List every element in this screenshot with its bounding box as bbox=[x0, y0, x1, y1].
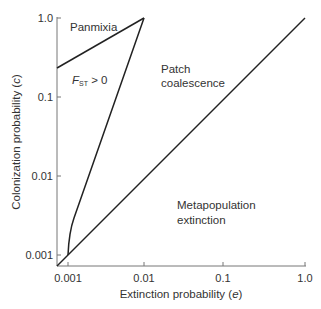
fst-boundary-curve bbox=[68, 18, 144, 255]
region-label-metapopulation-extinction: Metapopulation bbox=[177, 199, 256, 211]
x-tick-label: 1.0 bbox=[297, 272, 312, 284]
y-tick-label: 0.01 bbox=[32, 170, 53, 182]
region-label-metapopulation-extinction: extinction bbox=[177, 214, 226, 226]
region-label-fst: FST > 0 bbox=[72, 74, 108, 87]
extinction-boundary-line bbox=[57, 18, 305, 266]
x-tick-label: 0.1 bbox=[215, 272, 230, 284]
x-tick-label: 0.001 bbox=[54, 272, 82, 284]
chart: 1.0 0.1 0.01 0.001 0.001 0.01 0.1 1.0 Ex… bbox=[0, 0, 321, 309]
y-tick-label: 1.0 bbox=[38, 12, 53, 24]
x-axis-label: Extinction probability (e) bbox=[120, 288, 243, 300]
y-tick-label: 0.1 bbox=[38, 91, 53, 103]
x-tick-label: 0.01 bbox=[133, 272, 154, 284]
region-label-patch-coalescence: coalescence bbox=[161, 77, 225, 89]
y-tick-label: 0.001 bbox=[25, 249, 53, 261]
region-label-panmixia: Panmixia bbox=[70, 21, 118, 33]
y-axis-label: Colonization probability (c) bbox=[10, 74, 22, 210]
region-label-patch-coalescence: Patch bbox=[161, 63, 190, 75]
